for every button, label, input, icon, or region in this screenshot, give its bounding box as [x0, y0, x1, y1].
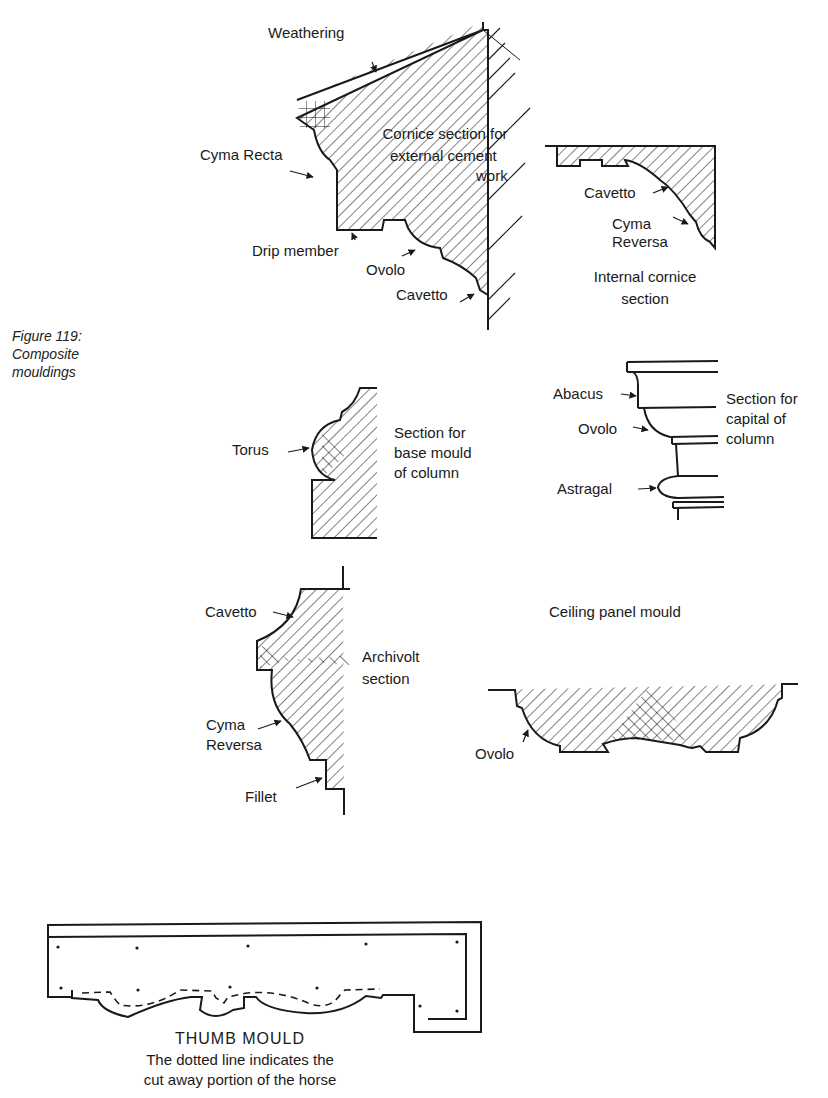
- capital-title-line1: Section for: [726, 390, 798, 408]
- label-weathering: Weathering: [268, 24, 344, 42]
- capital-title-line3: column: [726, 430, 774, 448]
- external-cornice-title-line2: external cement: [390, 147, 497, 165]
- thumb-mould-title: THUMB MOULD: [150, 1030, 330, 1048]
- thumb-mould-note: The dotted line indicates the cut away p…: [90, 1050, 390, 1090]
- label-ovolo-capital: Ovolo: [578, 420, 617, 438]
- archivolt-section: [257, 566, 350, 815]
- archivolt-title-line2: section: [362, 670, 410, 688]
- archivolt-title-line1: Archivolt: [362, 648, 420, 666]
- capital-section: [627, 361, 724, 520]
- label-cavetto-cornice: Cavetto: [396, 286, 448, 304]
- capital-title-line2: capital of: [726, 410, 786, 428]
- thumb-mould-note-line2: cut away portion of the horse: [90, 1070, 390, 1090]
- label-cyma-archivolt-line1: Cyma: [206, 716, 245, 734]
- label-cyma-internal-line2: Reversa: [612, 233, 668, 251]
- base-mould-title-line1: Section for: [394, 424, 466, 442]
- base-leader-lines: [288, 448, 309, 452]
- label-drip-member: Drip member: [252, 242, 339, 260]
- internal-cornice-title-line1: Internal cornice: [575, 268, 715, 286]
- label-cyma-recta: Cyma Recta: [200, 146, 283, 164]
- ceiling-panel-title: Ceiling panel mould: [549, 603, 681, 621]
- base-mould-title-line3: of column: [394, 464, 459, 482]
- external-cornice-title: Cornice section for: [355, 125, 535, 143]
- label-fillet: Fillet: [245, 788, 277, 806]
- figure-number: Figure 119:: [12, 327, 82, 345]
- label-cavetto-internal: Cavetto: [584, 184, 636, 202]
- ceiling-panel-section: [488, 684, 798, 752]
- label-torus: Torus: [232, 441, 269, 459]
- base-mould-title-line2: base mould: [394, 444, 472, 462]
- base-mould-section: [312, 388, 377, 538]
- figure-title-line2: mouldings: [12, 363, 82, 381]
- label-ovolo-ceiling: Ovolo: [475, 745, 514, 763]
- label-ovolo-cornice: Ovolo: [366, 261, 405, 279]
- external-cornice-title-line3: work: [476, 167, 508, 185]
- label-cavetto-archivolt: Cavetto: [205, 603, 257, 621]
- label-astragal: Astragal: [557, 480, 612, 498]
- ceiling-leader-lines: [523, 730, 528, 742]
- figure-title-line1: Composite: [12, 345, 82, 363]
- internal-cornice-title-line2: section: [575, 290, 715, 308]
- label-abacus: Abacus: [553, 385, 603, 403]
- thumb-mould-note-line1: The dotted line indicates the: [90, 1050, 390, 1070]
- figure-caption: Figure 119: Composite mouldings: [12, 327, 82, 381]
- thumb-mould-drawing: [48, 922, 481, 1032]
- label-cyma-archivolt-line2: Reversa: [206, 736, 262, 754]
- external-cornice-title-line1: Cornice section for: [355, 125, 535, 143]
- label-cyma-internal-line1: Cyma: [612, 215, 651, 233]
